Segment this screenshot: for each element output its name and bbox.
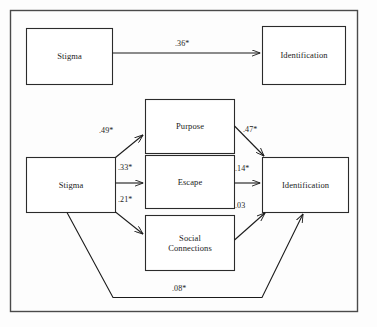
edge-label-stigma-purpose: .49*	[99, 126, 113, 135]
node-box-escape	[146, 156, 235, 209]
node-box-purpose	[146, 100, 235, 154]
node-box-identification-mid	[263, 158, 349, 213]
diagram-canvas	[0, 0, 377, 327]
path-diagram-figure: Stigma Identification Stigma Purpose Esc…	[0, 0, 377, 327]
node-box-stigma-top	[27, 29, 113, 85]
node-box-stigma-mid	[27, 158, 116, 213]
node-box-social-connections	[146, 216, 235, 271]
edge-label-stigma-escape: .33*	[118, 163, 132, 172]
edge-label-stigma-identification-direct: .36*	[175, 39, 189, 48]
edge-label-purpose-identification: .47*	[243, 125, 257, 134]
edge-label-social-identification: .03	[235, 201, 245, 210]
edge-label-stigma-social: .21*	[118, 195, 132, 204]
edge-label-escape-identification: .14*	[235, 164, 249, 173]
node-box-identification-top	[263, 27, 346, 85]
edge-label-stigma-identification-indirect: .08*	[172, 284, 186, 293]
